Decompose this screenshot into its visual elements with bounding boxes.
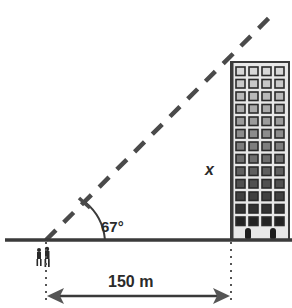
observer-people-icon: [37, 247, 50, 267]
elevation-diagram: [0, 0, 292, 308]
building-door-left: [245, 228, 251, 240]
building: [231, 62, 289, 240]
building-door-right: [270, 228, 276, 240]
height-label: x: [205, 161, 214, 179]
distance-label: 150 m: [108, 273, 153, 291]
angle-label: 67°: [101, 218, 124, 235]
